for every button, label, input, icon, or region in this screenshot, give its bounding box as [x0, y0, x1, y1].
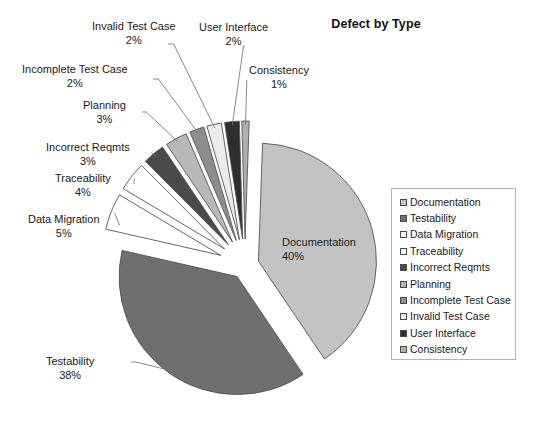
legend-item-label: Documentation — [410, 197, 481, 208]
legend-item[interactable]: Data Migration — [400, 227, 515, 243]
pie-slice[interactable] — [242, 121, 249, 239]
slice-label-pct: 2% — [22, 77, 128, 91]
slice-label-name: Planning — [83, 99, 126, 113]
slice-label-data-migration: Data Migration 5% — [28, 213, 100, 240]
chart-legend: DocumentationTestabilityData MigrationTr… — [391, 188, 516, 360]
slice-label-pct: 40% — [282, 249, 356, 263]
slice-label-name: Incorrect Reqmts — [46, 141, 130, 155]
legend-item[interactable]: Incorrect Reqmts — [400, 260, 515, 276]
legend-item-label: User Interface — [410, 328, 476, 339]
slice-label-testability: Testability 38% — [46, 355, 94, 382]
legend-item-label: Invalid Test Case — [410, 311, 490, 322]
legend-item[interactable]: Consistency — [400, 342, 515, 358]
legend-item[interactable]: User Interface — [400, 325, 515, 341]
legend-item-label: Testability — [410, 213, 456, 224]
legend-item[interactable]: Planning — [400, 276, 515, 292]
slice-label-incomplete-test-case: Incomplete Test Case 2% — [22, 63, 128, 90]
slice-label-name: Incomplete Test Case — [22, 63, 128, 77]
legend-item[interactable]: Incomplete Test Case — [400, 292, 515, 308]
leader-line — [246, 80, 248, 125]
slice-label-user-interface: User Interface 2% — [199, 21, 268, 48]
legend-item[interactable]: Testability — [400, 210, 515, 226]
legend-item-label: Incorrect Reqmts — [410, 262, 490, 273]
slice-label-name: Invalid Test Case — [92, 20, 176, 34]
slice-label-invalid-test-case: Invalid Test Case 2% — [92, 20, 176, 47]
legend-item[interactable]: Documentation — [400, 194, 515, 210]
slice-label-name: Testability — [46, 355, 94, 369]
legend-item-label: Traceability — [410, 246, 463, 257]
slice-label-pct: 2% — [92, 34, 176, 48]
slice-label-pct: 2% — [199, 35, 268, 49]
slice-label-pct: 3% — [46, 155, 130, 169]
leader-line — [142, 112, 178, 142]
leader-line — [232, 46, 245, 125]
legend-swatch-icon — [400, 313, 407, 320]
legend-swatch-icon — [400, 215, 407, 222]
legend-item-label: Planning — [410, 279, 451, 290]
legend-swatch-icon — [400, 346, 407, 353]
slice-label-incorrect-reqmts: Incorrect Reqmts 3% — [46, 141, 130, 168]
legend-item-label: Incomplete Test Case — [410, 295, 511, 306]
slice-label-documentation: Documentation 40% — [282, 235, 356, 263]
legend-swatch-icon — [400, 281, 407, 288]
pie-chart-figure: Defect by Type Invalid Test Case 2% User… — [0, 0, 538, 428]
legend-swatch-icon — [400, 330, 407, 337]
legend-item-label: Data Migration — [410, 229, 478, 240]
slice-label-name: Data Migration — [28, 213, 100, 227]
slice-label-planning: Planning 3% — [83, 99, 126, 126]
slice-label-pct: 1% — [249, 78, 309, 92]
legend-swatch-icon — [400, 231, 407, 238]
slice-label-pct: 4% — [55, 186, 111, 200]
slice-label-pct: 38% — [46, 369, 94, 383]
slice-label-pct: 5% — [28, 227, 100, 241]
slice-label-name: Traceability — [55, 172, 111, 186]
legend-swatch-icon — [400, 248, 407, 255]
legend-swatch-icon — [400, 199, 407, 206]
slice-label-name: User Interface — [199, 21, 268, 35]
legend-item[interactable]: Invalid Test Case — [400, 309, 515, 325]
legend-swatch-icon — [400, 264, 407, 271]
legend-item[interactable]: Traceability — [400, 243, 515, 259]
legend-swatch-icon — [400, 297, 407, 304]
slice-label-name: Documentation — [282, 235, 356, 249]
slice-label-pct: 3% — [83, 113, 126, 127]
slice-label-traceability: Traceability 4% — [55, 172, 111, 199]
leader-line — [168, 44, 215, 128]
legend-item-label: Consistency — [410, 344, 467, 355]
slice-label-name: Consistency — [249, 64, 309, 78]
slice-label-consistency: Consistency 1% — [249, 64, 309, 91]
